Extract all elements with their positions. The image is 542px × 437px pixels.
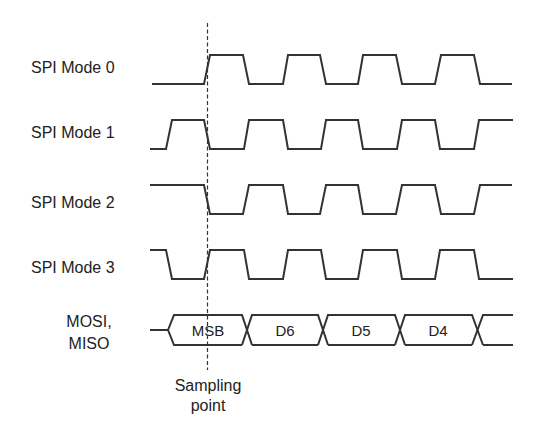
sampling-point-label-line-2: point	[191, 397, 226, 414]
bus-bit-d4: D4	[428, 322, 447, 339]
signal-label-mode-3: SPI Mode 3	[31, 259, 115, 276]
signal-label-mode-0: SPI Mode 0	[31, 59, 115, 76]
signal-label-mode-1: SPI Mode 1	[31, 124, 115, 141]
sampling-point-label-line-1: Sampling	[175, 377, 242, 394]
bus-bit-d5: D5	[351, 322, 370, 339]
spi-timing-diagram: SPI Mode 0 SPI Mode 1 SPI Mode 2 SPI Mod…	[0, 0, 542, 437]
signal-label-mode-2: SPI Mode 2	[31, 194, 115, 211]
bus-label-line-2: MISO	[69, 335, 110, 352]
bus-bit-d6: D6	[275, 322, 294, 339]
waveform-mode-1	[150, 120, 513, 149]
waveform-mode-0	[152, 55, 512, 84]
waveform-mode-2	[150, 185, 512, 214]
waveform-mode-3	[150, 250, 513, 279]
bus-label-line-1: MOSI,	[66, 313, 111, 330]
